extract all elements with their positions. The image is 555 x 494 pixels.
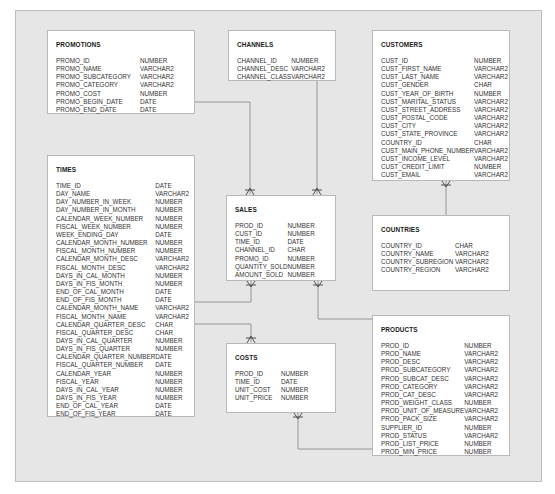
column-type: VARCHAR2 bbox=[474, 155, 520, 163]
column-type: NUMBER bbox=[155, 378, 201, 386]
column-type: VARCHAR2 bbox=[464, 415, 510, 423]
column-type: VARCHAR2 bbox=[464, 366, 510, 374]
column-name: CUST_POSTAL_CODE bbox=[381, 114, 448, 122]
column-name: COUNTRY_ID bbox=[381, 139, 422, 147]
column-name: PROMO_NAME bbox=[56, 65, 101, 73]
column-type: NUMBER bbox=[464, 448, 510, 456]
column-type: NUMBER bbox=[464, 399, 510, 407]
column-row: CUST_YEAR_OF_BIRTHNUMBER bbox=[381, 90, 520, 98]
column-name: CUST_GENDER bbox=[381, 81, 429, 89]
column-type: DATE bbox=[155, 288, 201, 296]
rel-times-costs bbox=[195, 324, 251, 342]
column-row: CHANNEL_IDCHAR bbox=[235, 246, 333, 254]
table-title: CHANNELS bbox=[237, 41, 327, 48]
column-name: PROD_WEIGHT_CLASS bbox=[381, 399, 452, 407]
column-row: END_OF_CAL_YEARDATE bbox=[56, 402, 201, 410]
column-type: VARCHAR2 bbox=[474, 114, 520, 122]
column-name: TIME_ID bbox=[235, 238, 260, 246]
table-channels[interactable]: CHANNELS CHANNEL_IDNUMBERCHANNEL_DESCVAR… bbox=[228, 30, 336, 81]
column-name: CALENDAR_MONTH_DESC bbox=[56, 255, 138, 263]
column-row: CUST_FIRST_NAMEVARCHAR2 bbox=[381, 65, 520, 73]
column-type: NUMBER bbox=[155, 337, 201, 345]
column-row: END_OF_FIS_YEARDATE bbox=[56, 410, 201, 418]
column-name: TIME_ID bbox=[235, 378, 260, 386]
column-row: SUPPLIER_IDNUMBER bbox=[381, 424, 510, 432]
table-products[interactable]: PRODUCTS PROD_IDNUMBERPROD_NAMEVARCHAR2P… bbox=[372, 315, 510, 456]
column-type: NUMBER bbox=[287, 255, 333, 263]
column-row: CALENDAR_MONTH_DESCVARCHAR2 bbox=[56, 255, 201, 263]
column-type: VARCHAR2 bbox=[140, 65, 186, 73]
column-type: DATE bbox=[281, 378, 327, 386]
column-row: FISCAL_QUARTER_NUMBERDATE bbox=[56, 361, 201, 369]
column-row: PROMO_COSTNUMBER bbox=[56, 90, 186, 98]
table-customers[interactable]: CUSTOMERS CUST_IDNUMBERCUST_FIRST_NAMEVA… bbox=[372, 30, 510, 181]
column-type: VARCHAR2 bbox=[464, 391, 510, 399]
column-name: COUNTRY_ID bbox=[381, 242, 422, 250]
column-list: PROD_IDNUMBERPROD_NAMEVARCHAR2PROD_DESCV… bbox=[381, 342, 501, 456]
table-costs[interactable]: COSTS PROD_IDNUMBERTIME_IDDATEUNIT_COSTN… bbox=[226, 343, 336, 413]
column-row: PROD_LIST_PRICENUMBER bbox=[381, 440, 510, 448]
column-name: CUST_ID bbox=[235, 230, 262, 238]
table-countries[interactable]: COUNTRIES COUNTRY_IDCHARCOUNTRY_NAMEVARC… bbox=[372, 215, 510, 291]
column-name: DAYS_IN_CAL_MONTH bbox=[56, 272, 125, 280]
column-name: DAYS_IN_FIS_YEAR bbox=[56, 394, 116, 402]
column-type: CHAR bbox=[455, 242, 501, 250]
table-sales[interactable]: SALES PROD_IDNUMBERCUST_IDNUMBERTIME_IDD… bbox=[226, 195, 336, 281]
column-row: COUNTRY_IDCHAR bbox=[381, 139, 520, 147]
column-type: VARCHAR2 bbox=[464, 383, 510, 391]
column-row: CUST_CREDIT_LIMITNUMBER bbox=[381, 163, 520, 171]
column-type: DATE bbox=[140, 98, 186, 106]
column-row: TIME_IDDATE bbox=[235, 238, 333, 246]
column-row: QUANTITY_SOLDNUMBER bbox=[235, 263, 333, 271]
column-type: VARCHAR2 bbox=[474, 171, 520, 179]
column-type: NUMBER bbox=[474, 163, 520, 171]
column-name: PROD_ID bbox=[235, 222, 263, 230]
column-row: PROD_PACK_SIZEVARCHAR2 bbox=[381, 415, 510, 423]
column-row: CUST_MARITAL_STATUSVARCHAR2 bbox=[381, 98, 520, 106]
column-row: PROD_IDNUMBER bbox=[381, 342, 510, 350]
column-type: NUMBER bbox=[281, 370, 327, 378]
column-name: PROD_SUBCATEGORY bbox=[381, 366, 450, 374]
column-type: CHAR bbox=[474, 139, 520, 147]
column-row: PROMO_SUBCATEGORYVARCHAR2 bbox=[56, 73, 186, 81]
column-type: VARCHAR2 bbox=[155, 264, 201, 272]
column-name: DAYS_IN_FIS_MONTH bbox=[56, 280, 122, 288]
column-name: CUST_EMAIL bbox=[381, 171, 421, 179]
column-name: CUST_STATE_PROVINCE bbox=[381, 130, 457, 138]
column-type: VARCHAR2 bbox=[464, 358, 510, 366]
column-type: VARCHAR2 bbox=[455, 258, 501, 266]
column-type: DATE bbox=[155, 182, 201, 190]
column-name: COUNTRY_SUBREGION bbox=[381, 258, 453, 266]
column-list: PROMO_IDNUMBERPROMO_NAMEVARCHAR2PROMO_SU… bbox=[56, 57, 186, 114]
column-name: PROD_STATUS bbox=[381, 432, 427, 440]
column-name: DAY_NUMBER_IN_MONTH bbox=[56, 206, 136, 214]
column-row: WEEK_ENDING_DAYDATE bbox=[56, 231, 201, 239]
column-type: NUMBER bbox=[155, 215, 201, 223]
column-row: CALENDAR_WEEK_NUMBERNUMBER bbox=[56, 215, 201, 223]
table-times[interactable]: TIMES TIME_IDDATEDAY_NAMEVARCHAR2DAY_NUM… bbox=[47, 155, 195, 417]
column-name: DAYS_IN_FIS_QUARTER bbox=[56, 345, 130, 353]
rel-products-costs bbox=[298, 413, 372, 449]
column-name: QUANTITY_SOLD bbox=[235, 263, 287, 271]
rel-promotions-sales bbox=[195, 102, 250, 194]
table-title: SALES bbox=[235, 206, 327, 213]
column-row: COUNTRY_IDCHAR bbox=[381, 242, 501, 250]
column-name: CALENDAR_MONTH_NUMBER bbox=[56, 239, 148, 247]
column-row: CUST_CITYVARCHAR2 bbox=[381, 122, 520, 130]
column-type: VARCHAR2 bbox=[155, 304, 201, 312]
column-type: NUMBER bbox=[474, 57, 520, 65]
column-type: NUMBER bbox=[474, 90, 520, 98]
column-type: CHAR bbox=[474, 81, 520, 89]
column-type: VARCHAR2 bbox=[464, 375, 510, 383]
column-type: VARCHAR2 bbox=[464, 407, 510, 415]
column-name: FISCAL_QUARTER_DESC bbox=[56, 329, 133, 337]
column-row: END_OF_FIS_MONTHDATE bbox=[56, 296, 201, 304]
column-name: END_OF_CAL_YEAR bbox=[56, 402, 118, 410]
column-type: DATE bbox=[155, 402, 201, 410]
column-row: FISCAL_MONTH_NUMBERNUMBER bbox=[56, 247, 201, 255]
column-name: CALENDAR_QUARTER_NUMBER bbox=[56, 353, 155, 361]
column-name: CALENDAR_MONTH_NAME bbox=[56, 304, 139, 312]
column-name: CUST_FIRST_NAME bbox=[381, 65, 442, 73]
column-row: UNIT_COSTNUMBER bbox=[235, 386, 327, 394]
table-promotions[interactable]: PROMOTIONS PROMO_IDNUMBERPROMO_NAMEVARCH… bbox=[47, 30, 195, 114]
